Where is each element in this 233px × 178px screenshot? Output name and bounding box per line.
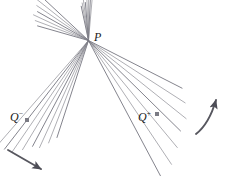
- ray-line: [33, 41, 89, 147]
- ray-line: [89, 41, 186, 103]
- lower-left-direction-arrow: [8, 150, 41, 169]
- upper-ray-fan: [81, 0, 92, 40]
- ray-line: [89, 41, 172, 165]
- diagram-canvas: [0, 0, 233, 178]
- q-minus-marker: [25, 118, 29, 122]
- q-plus-base: Q: [138, 110, 147, 124]
- ray-line: [49, 41, 89, 143]
- ray-line: [23, 41, 89, 150]
- q-minus-base: Q: [10, 110, 19, 124]
- q-plus-superscript: +: [147, 109, 151, 118]
- ray-line: [38, 12, 89, 41]
- ray-line: [57, 41, 89, 138]
- lower-right-direction-arrow: [196, 100, 216, 134]
- ray-line: [89, 41, 178, 148]
- ray-line: [89, 41, 183, 89]
- ray-line: [89, 41, 181, 131]
- point-label-q-plus: Q+: [138, 110, 151, 123]
- q-plus-marker: [155, 112, 159, 116]
- lower-left-ray-fan: [0, 41, 88, 153]
- figure-container: P Q− Q+: [0, 0, 233, 178]
- ray-line: [89, 41, 187, 119]
- point-label-p: P: [94, 31, 101, 43]
- ray-line: [12, 41, 89, 153]
- ray-line: [0, 41, 88, 151]
- point-label-q-minus: Q−: [10, 110, 23, 123]
- q-minus-superscript: −: [19, 109, 23, 118]
- ray-line: [35, 21, 88, 41]
- lower-right-ray-fan: [89, 41, 187, 176]
- upper-left-ray-fan: [33, 0, 88, 40]
- ray-line: [37, 6, 89, 41]
